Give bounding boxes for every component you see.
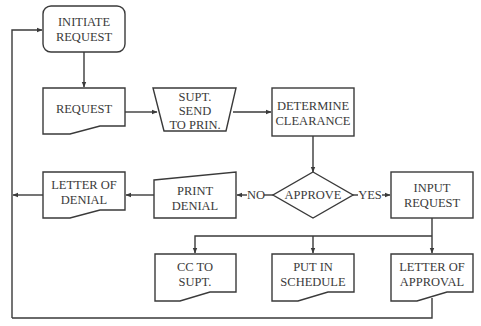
- node-letter-of-denial: LETTER OF DENIAL: [43, 172, 125, 218]
- node-label: APPROVAL: [400, 275, 464, 289]
- node-label: DENIAL: [61, 193, 108, 207]
- node-label: LETTER OF: [51, 178, 117, 192]
- flowchart-canvas: INITIATE REQUEST REQUEST SUPT. SEND TO P…: [0, 0, 481, 326]
- node-print-denial: PRINT DENIAL: [154, 172, 236, 218]
- node-cc-to-supt: CC TO SUPT.: [155, 254, 236, 301]
- node-input-request: INPUT REQUEST: [391, 172, 473, 218]
- node-label: SUPT.: [179, 90, 212, 104]
- node-label: REQUEST: [56, 30, 113, 44]
- node-label: PRINT: [177, 184, 213, 198]
- node-approve: APPROVE: [273, 172, 353, 218]
- node-label: SCHEDULE: [280, 275, 346, 289]
- node-label: REQUEST: [404, 196, 461, 210]
- node-supt-send: SUPT. SEND TO PRIN.: [153, 88, 236, 132]
- edge-label-yes: YES: [358, 188, 382, 202]
- node-put-in-schedule: PUT IN SCHEDULE: [272, 254, 354, 301]
- node-label: CLEARANCE: [276, 114, 351, 128]
- node-label: DENIAL: [172, 199, 219, 213]
- node-label: TO PRIN.: [169, 118, 220, 132]
- node-label: INPUT: [414, 181, 451, 195]
- node-letter-of-approval: LETTER OF APPROVAL: [391, 254, 473, 301]
- node-label: CC TO: [177, 260, 213, 274]
- node-label: SEND: [179, 104, 212, 118]
- node-label: PUT IN: [293, 260, 333, 274]
- node-label: SUPT.: [179, 275, 212, 289]
- node-label: REQUEST: [56, 102, 113, 116]
- node-request: REQUEST: [43, 88, 125, 134]
- node-label: INITIATE: [58, 15, 110, 29]
- node-label: DETERMINE: [277, 99, 350, 113]
- node-determine-clearance: DETERMINE CLEARANCE: [272, 88, 354, 136]
- node-label: APPROVE: [285, 188, 342, 202]
- approval-return-connector: [12, 298, 432, 318]
- loop-back-connector: [12, 30, 42, 318]
- edge-label-no: NO: [247, 188, 265, 202]
- node-initiate-request: INITIATE REQUEST: [43, 6, 125, 52]
- node-label: LETTER OF: [399, 260, 465, 274]
